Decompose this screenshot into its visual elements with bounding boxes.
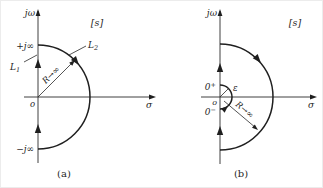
real-axis-arrow-icon	[149, 95, 156, 100]
minus-j-infinity-label: −j∞	[16, 144, 34, 154]
zero-plus-label: 0+	[205, 81, 216, 93]
radius-label: R→∞	[233, 99, 256, 121]
caption-a: (a)	[57, 168, 71, 179]
epsilon-radius-line	[220, 89, 229, 98]
epsilon-label: ε	[233, 83, 238, 93]
real-axis-arrow-icon	[310, 95, 317, 100]
imag-axis-label: jω	[23, 8, 36, 18]
imag-axis-arrow-icon	[218, 9, 223, 16]
figure-canvas: R→∞ jω σ [s] +j∞ −j∞ L1 L2 o (a)	[1, 1, 323, 188]
plus-j-infinity-label: +j∞	[16, 41, 34, 51]
s-plane-label: [s]	[91, 17, 104, 28]
panel-b: R→∞ jω σ [s] 0+ 0− o ε (b)	[201, 8, 317, 179]
panel-a: R→∞ jω σ [s] +j∞ −j∞ L1 L2 o (a)	[9, 8, 156, 179]
zero-minus-label: 0−	[205, 106, 216, 118]
l1-leader-line	[24, 55, 37, 62]
contour-direction-arrow-icon	[217, 126, 223, 135]
nyquist-contour-figure: R→∞ jω σ [s] +j∞ −j∞ L1 L2 o (a)	[0, 0, 323, 188]
imag-axis-arrow-icon	[36, 9, 41, 16]
origin-label: o	[30, 99, 35, 109]
real-axis-label: σ	[308, 100, 315, 110]
origin-label: o	[212, 98, 217, 107]
imag-axis-label: jω	[205, 8, 218, 18]
l2-leader-line	[69, 46, 86, 55]
contour-direction-arrow-icon	[35, 124, 41, 133]
l1-label: L1	[9, 62, 20, 74]
s-plane-label: [s]	[289, 17, 302, 28]
radius-label: R→∞	[39, 64, 61, 86]
contour-direction-arrow-icon	[35, 59, 41, 68]
caption-b: (b)	[234, 168, 248, 179]
l2-label: L2	[87, 40, 98, 52]
contour-direction-arrow-icon	[217, 63, 223, 72]
real-axis-label: σ	[146, 100, 153, 110]
